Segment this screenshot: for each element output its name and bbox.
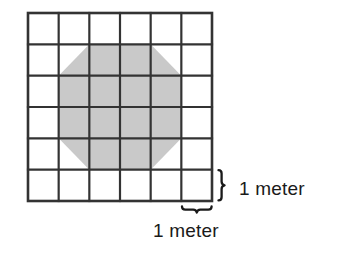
figure-root: 1 meter 1 meter — [0, 0, 346, 262]
vertical-scale-label: 1 meter — [239, 179, 305, 198]
horizontal-scale-label: 1 meter — [153, 221, 219, 240]
